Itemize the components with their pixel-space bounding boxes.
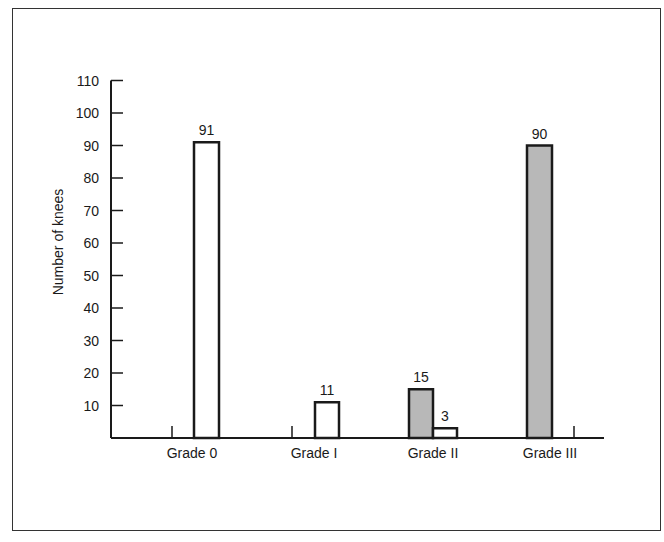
y-tick-label: 60 [83, 235, 99, 251]
bar-value-label: 11 [320, 382, 335, 398]
x-category-label: Grade II [408, 445, 459, 461]
x-category-label: Grade III [523, 445, 577, 461]
bar-grade-iii-shaded [527, 146, 552, 439]
y-tick-label: 70 [83, 203, 99, 219]
y-tick-label: 40 [83, 300, 99, 316]
y-tick-label: 110 [77, 73, 100, 89]
bar-grade-0-unshaded [194, 142, 219, 438]
bar-value-label: 3 [441, 408, 449, 424]
y-axis: 102030405060708090100110 [76, 73, 123, 439]
y-tick-label: 30 [83, 333, 99, 349]
x-category-label: Grade 0 [167, 445, 218, 461]
y-tick-label: 80 [83, 170, 99, 186]
y-tick-label: 10 [83, 398, 99, 414]
bar-grade-i-unshaded [315, 402, 339, 438]
bar-chart: 102030405060708090100110 Grade 0Grade IG… [0, 0, 664, 542]
y-tick-label: 50 [83, 268, 99, 284]
bar-value-label: 91 [199, 122, 215, 138]
bar-grade-ii-unshaded [433, 428, 457, 438]
bar-value-label: 90 [532, 126, 548, 142]
bar-grade-ii-shaded [409, 389, 433, 438]
y-tick-label: 90 [83, 138, 99, 154]
y-axis-label: Number of knees [50, 189, 66, 296]
y-tick-label: 20 [83, 365, 99, 381]
y-tick-label: 100 [76, 105, 100, 121]
bar-value-label: 15 [413, 369, 429, 385]
bars: 911115390 [194, 122, 552, 438]
x-category-label: Grade I [291, 445, 338, 461]
